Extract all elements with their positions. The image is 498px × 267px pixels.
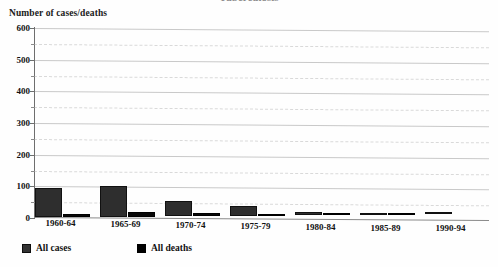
y-axis-tick-label: 100 xyxy=(2,181,30,191)
x-axis-tick-label: 1980-84 xyxy=(288,222,353,232)
figure-title-cropped: Tuberculosis xyxy=(0,0,498,5)
y-axis-tick-label: 500 xyxy=(2,55,30,65)
legend-item-deaths: All deaths xyxy=(137,243,192,253)
bar-deaths xyxy=(128,212,155,216)
x-axis-tick-label: 1985-89 xyxy=(353,223,418,233)
bar-deaths xyxy=(193,213,220,216)
y-axis-tick-label: 600 xyxy=(2,23,30,33)
bar-group xyxy=(35,28,90,218)
legend-swatch-cases xyxy=(22,244,31,253)
bar-group xyxy=(295,28,350,218)
bar-deaths xyxy=(258,214,285,216)
x-axis-tick-label: 1970-74 xyxy=(158,220,223,230)
x-axis-tick-label: 1975-79 xyxy=(223,221,288,231)
legend-item-cases: All cases xyxy=(22,243,71,253)
bar-deaths xyxy=(388,213,415,215)
bars-layer xyxy=(34,28,489,218)
bar-cases xyxy=(230,206,257,216)
legend-label: All deaths xyxy=(151,243,192,253)
x-axis-tick-labels: 1960-641965-691970-741975-791980-841985-… xyxy=(34,218,489,236)
legend-label: All cases xyxy=(36,243,71,253)
y-axis-tick-label: 300 xyxy=(2,118,30,128)
bar-deaths xyxy=(63,214,90,217)
bar-cases xyxy=(165,201,192,216)
y-axis-title: Number of cases/deaths xyxy=(9,8,107,18)
chart-figure: Tuberculosis Number of cases/deaths 0100… xyxy=(0,0,498,267)
bar-cases xyxy=(100,186,127,217)
y-axis-tick-label: 0 xyxy=(2,213,30,223)
bar-group xyxy=(165,28,220,218)
bar-deaths xyxy=(323,213,350,215)
bar-group xyxy=(230,28,285,218)
bar-group xyxy=(100,28,155,218)
bar-group xyxy=(360,28,415,218)
figure-title-text: Tuberculosis xyxy=(0,0,498,3)
x-axis-tick-label: 1990-94 xyxy=(418,223,483,233)
y-axis-tick-label: 400 xyxy=(2,86,30,96)
x-axis-tick-label: 1965-69 xyxy=(93,219,158,229)
x-axis-tick-label: 1960-64 xyxy=(28,218,93,228)
y-axis-tick-label: 200 xyxy=(2,150,30,160)
bar-cases xyxy=(425,212,452,215)
bar-group xyxy=(425,28,480,218)
bar-cases xyxy=(295,212,322,215)
legend-swatch-deaths xyxy=(137,244,146,253)
bar-cases xyxy=(35,188,62,217)
bar-cases xyxy=(360,213,387,215)
y-axis-tick-labels: 0100200300400500600 xyxy=(0,28,30,218)
